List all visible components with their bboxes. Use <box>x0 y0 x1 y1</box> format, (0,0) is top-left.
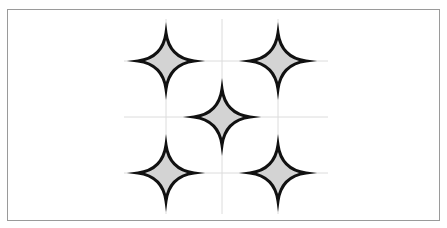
star-icon-top-left <box>138 33 194 89</box>
star-icon-bottom-left <box>138 145 194 201</box>
star-icon-top-right <box>250 33 306 89</box>
star-icon-bottom-right <box>250 145 306 201</box>
star-icon-center <box>194 89 250 145</box>
star-grid-diagram <box>0 0 447 228</box>
